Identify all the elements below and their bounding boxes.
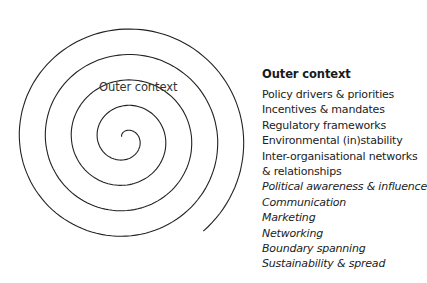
spiral-line xyxy=(19,29,243,236)
list-item: Environmental (in)stability xyxy=(262,133,427,148)
factor-list: Policy drivers & priorities Incentives &… xyxy=(262,87,427,272)
list-item: Boundary spanning xyxy=(262,241,427,256)
list-item: Networking xyxy=(262,226,427,241)
list-item: Political awareness & influence xyxy=(262,179,427,194)
list-item: Sustainability & spread xyxy=(262,256,427,271)
list-item: Inter-organisational networks xyxy=(262,149,427,164)
spiral-diagram xyxy=(0,0,260,283)
list-item: Communication xyxy=(262,195,427,210)
list-item: Policy drivers & priorities xyxy=(262,87,427,102)
outer-context-panel: Outer context Policy drivers & prioritie… xyxy=(262,67,427,272)
list-item: Marketing xyxy=(262,210,427,225)
list-item: Incentives & mandates xyxy=(262,102,427,117)
list-item: & relationships xyxy=(262,164,427,179)
spiral-center-label: Outer context xyxy=(99,80,177,94)
list-item: Regulatory frameworks xyxy=(262,118,427,133)
panel-title: Outer context xyxy=(262,67,427,81)
